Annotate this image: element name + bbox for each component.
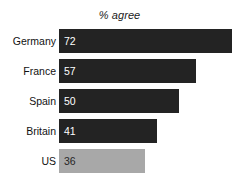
bar-track-germany: 72 [59, 29, 235, 53]
bar-value-germany: 72 [64, 29, 76, 53]
bar-row-us: US 36 [0, 149, 235, 173]
bar-track-spain: 50 [59, 89, 235, 113]
bar-value-us: 36 [64, 149, 76, 173]
bar-track-britain: 41 [59, 119, 235, 143]
bar-britain: 41 [59, 119, 157, 143]
bar-france: 57 [59, 59, 196, 83]
category-label-britain: Britain [0, 119, 56, 143]
category-label-germany: Germany [0, 29, 56, 53]
bar-row-germany: Germany 72 [0, 29, 235, 53]
bar-chart: % agree Germany 72 France 57 Spain 50 [0, 0, 235, 184]
bar-value-britain: 41 [64, 119, 76, 143]
bar-row-spain: Spain 50 [0, 89, 235, 113]
chart-title: % agree [0, 9, 235, 21]
bar-value-france: 57 [64, 59, 76, 83]
bar-germany: 72 [59, 29, 232, 53]
bar-value-spain: 50 [64, 89, 76, 113]
bar-us: 36 [59, 149, 145, 173]
bar-track-france: 57 [59, 59, 235, 83]
bar-row-britain: Britain 41 [0, 119, 235, 143]
bar-track-us: 36 [59, 149, 235, 173]
category-label-us: US [0, 149, 56, 173]
bar-row-france: France 57 [0, 59, 235, 83]
chart-plot-area: Germany 72 France 57 Spain 50 [0, 29, 235, 173]
category-label-spain: Spain [0, 89, 56, 113]
bar-spain: 50 [59, 89, 179, 113]
category-label-france: France [0, 59, 56, 83]
